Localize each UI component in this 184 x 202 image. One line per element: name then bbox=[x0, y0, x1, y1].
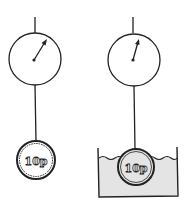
left-coin-label: 10p bbox=[25, 155, 48, 168]
left-coin-string bbox=[35, 85, 36, 141]
left-setup: 10p bbox=[9, 17, 61, 179]
left-spring-balance-icon bbox=[9, 33, 61, 85]
right-coin-icon: 10p bbox=[118, 149, 154, 185]
right-coin-label: 10p bbox=[125, 162, 148, 175]
left-coin-icon: 10p bbox=[17, 141, 55, 179]
right-spring-balance-icon bbox=[108, 34, 160, 86]
diagram-canvas: 10p 10p bbox=[0, 0, 184, 202]
right-coin-string bbox=[134, 86, 135, 150]
right-setup: 10p bbox=[98, 17, 178, 197]
